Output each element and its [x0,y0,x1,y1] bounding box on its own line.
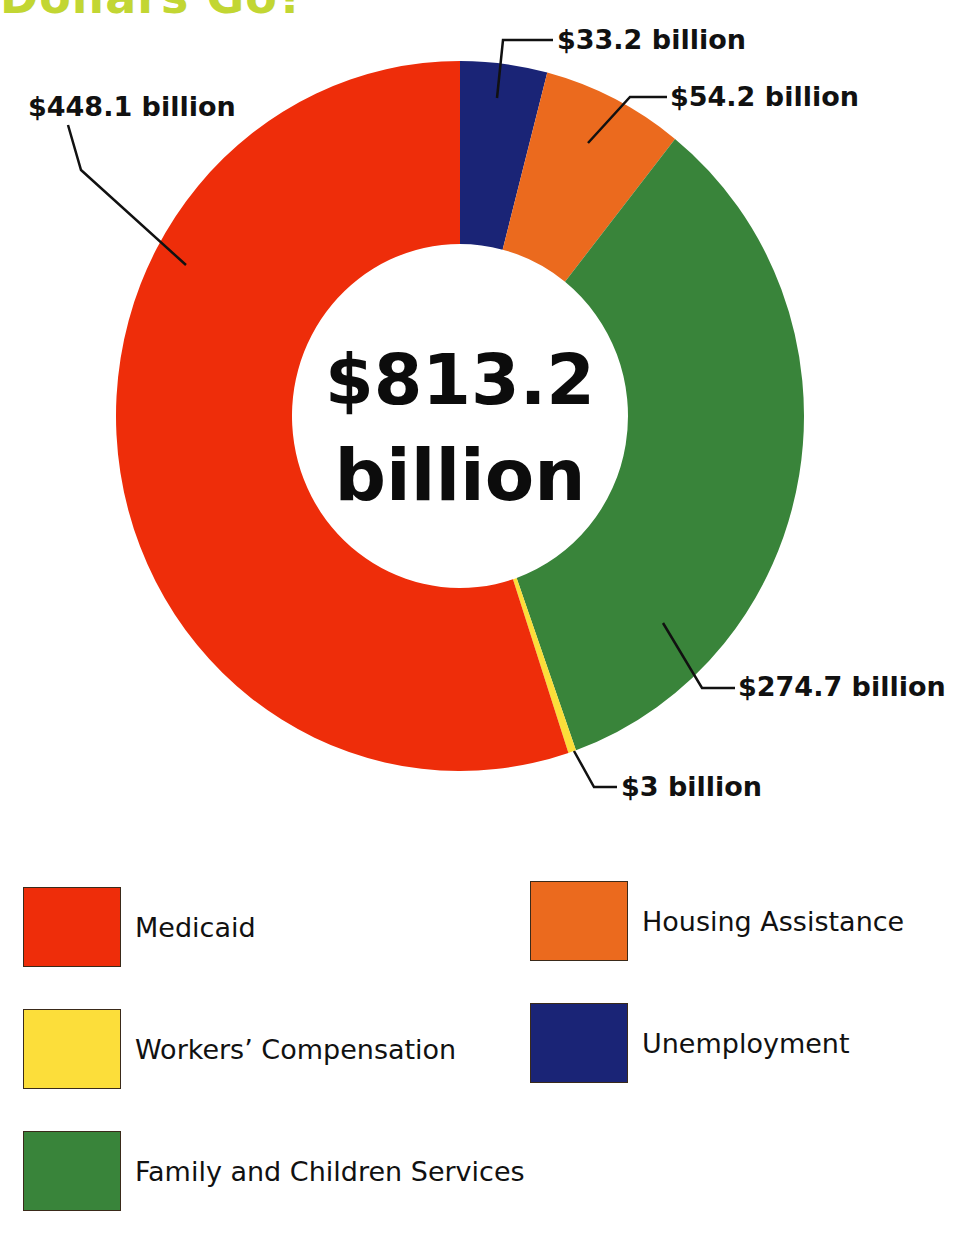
legend-item-medicaid: Medicaid [23,887,256,967]
leader-workers [574,751,617,787]
total-amount: $813.2 [292,340,628,420]
callout-family: $274.7 billion [738,671,946,702]
total-unit: billion [292,430,628,520]
callout-workers: $3 billion [621,771,762,802]
callout-housing: $54.2 billion [670,81,859,112]
legend-item-housing: Housing Assistance [530,881,904,961]
legend-label: Housing Assistance [642,906,904,937]
legend-item-family-children: Family and Children Services [23,1131,525,1211]
callout-unemployment: $33.2 billion [557,24,746,55]
legend-label: Unemployment [642,1028,850,1059]
legend-swatch-workers-compensation [23,1009,121,1089]
legend-swatch-medicaid [23,887,121,967]
legend-item-workers-compensation: Workers’ Compensation [23,1009,456,1089]
legend-swatch-unemployment [530,1003,628,1083]
legend-label: Medicaid [135,912,256,943]
legend-swatch-family-children [23,1131,121,1211]
legend-item-unemployment: Unemployment [530,1003,850,1083]
callout-medicaid: $448.1 billion [28,91,236,122]
legend-label: Family and Children Services [135,1156,525,1187]
legend-label: Workers’ Compensation [135,1034,456,1065]
legend-swatch-housing [530,881,628,961]
